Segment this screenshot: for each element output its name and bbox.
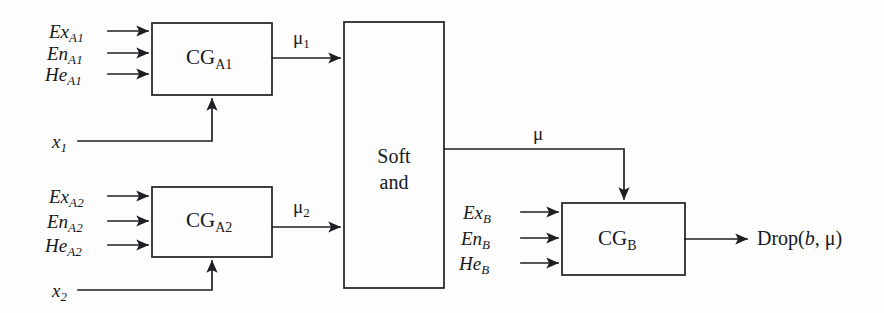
- cg-b-label: CGB: [598, 228, 637, 253]
- cg-a1-label: CGA1: [186, 47, 232, 72]
- output-suffix: ): [836, 227, 843, 249]
- input-label-en-a2: EnA2: [47, 212, 83, 234]
- soft-and-label: Soft and: [344, 143, 444, 195]
- output-separator: ,: [815, 227, 825, 249]
- cg-a2-label: CGA2: [186, 210, 232, 235]
- input-label-ex-b: ExB: [463, 203, 491, 225]
- output-italic-var: b: [805, 227, 815, 249]
- input-label-he-a2: HeA2: [45, 236, 82, 258]
- output-label-drop: Drop(b, μ): [757, 228, 842, 248]
- input-label-he-b: HeB: [459, 254, 489, 276]
- input-label-en-a1: EnA1: [47, 44, 83, 66]
- arrow-mu: [444, 149, 624, 199]
- block-diagram: ExA1 EnA1 HeA1 x1 CGA1 μ1 Soft and μ ExA…: [0, 0, 884, 313]
- signal-label-mu: μ: [533, 124, 543, 143]
- arrow-x2: [78, 261, 212, 290]
- input-label-x2: x2: [52, 281, 67, 303]
- input-label-ex-a2: ExA2: [49, 187, 84, 209]
- input-label-x1: x1: [52, 132, 67, 154]
- signal-label-mu1: μ1: [293, 28, 310, 50]
- output-prefix: Drop(: [757, 227, 805, 249]
- output-greek: μ: [825, 227, 836, 249]
- input-label-he-a1: HeA1: [45, 65, 82, 87]
- soft-and-line1: Soft: [344, 143, 444, 169]
- signal-label-mu2: μ2: [293, 197, 310, 219]
- soft-and-line2: and: [344, 169, 444, 195]
- input-label-ex-a1: ExA1: [49, 22, 84, 44]
- arrow-x1: [78, 99, 212, 141]
- input-label-en-b: EnB: [461, 229, 490, 251]
